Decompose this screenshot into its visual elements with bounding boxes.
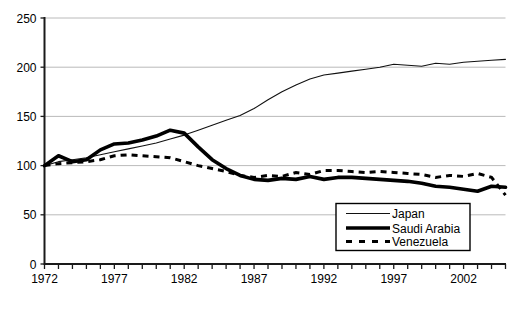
xtick-label-1997: 1997 bbox=[380, 272, 407, 286]
xtick-label-2002: 2002 bbox=[450, 272, 477, 286]
legend-label-japan: Japan bbox=[392, 207, 425, 221]
ytick-label-250: 250 bbox=[16, 12, 36, 26]
x-axis-labels: 1972197719821987199219972002 bbox=[31, 272, 477, 286]
ytick-label-50: 50 bbox=[23, 208, 37, 222]
legend-label-venezuela: Venezuela bbox=[392, 235, 448, 249]
xtick-label-1972: 1972 bbox=[31, 272, 58, 286]
series-line-japan bbox=[45, 59, 506, 165]
chart-container: 050100150200250 197219771982198719921997… bbox=[0, 0, 517, 309]
line-chart: 050100150200250 197219771982198719921997… bbox=[0, 0, 517, 309]
ytick-label-0: 0 bbox=[30, 258, 37, 272]
series-line-saudi-arabia bbox=[45, 130, 506, 191]
y-axis-labels: 050100150200250 bbox=[16, 12, 36, 272]
xtick-label-1982: 1982 bbox=[171, 272, 198, 286]
xtick-label-1987: 1987 bbox=[241, 272, 268, 286]
xtick-label-1992: 1992 bbox=[311, 272, 338, 286]
legend-label-saudi-arabia: Saudi Arabia bbox=[392, 222, 460, 236]
ytick-label-150: 150 bbox=[16, 110, 36, 124]
xtick-label-1977: 1977 bbox=[101, 272, 128, 286]
ytick-label-200: 200 bbox=[16, 61, 36, 75]
chart-legend: Japan Saudi Arabia Venezuela bbox=[336, 204, 470, 251]
series-line-venezuela bbox=[45, 155, 506, 195]
ytick-label-100: 100 bbox=[16, 159, 36, 173]
data-series bbox=[45, 59, 506, 195]
